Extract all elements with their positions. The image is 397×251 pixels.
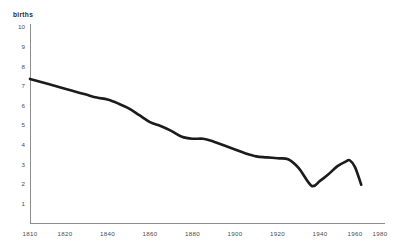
y-tick-label-9: 9 — [22, 43, 26, 50]
x-tick-label-1980: 1980 — [372, 230, 387, 237]
y-tick-label-5: 5 — [22, 121, 26, 128]
births-line-series — [30, 79, 361, 186]
y-axis-tick-labels: 10987654321 — [18, 23, 25, 206]
x-tick-label-1810: 1810 — [22, 230, 37, 237]
x-tick-label-1840: 1840 — [100, 230, 115, 237]
y-tick-label-1: 1 — [22, 200, 26, 207]
x-tick-label-1900: 1900 — [227, 230, 242, 237]
y-axis-title-group: births — [13, 11, 33, 18]
y-tick-label-8: 8 — [22, 63, 26, 70]
y-tick-label-4: 4 — [22, 141, 26, 148]
y-axis-title: births — [13, 11, 33, 18]
chart-canvas: births 10987654321 181018201840186018801… — [0, 0, 397, 251]
x-tick-label-1920: 1920 — [270, 230, 285, 237]
x-tick-label-1940: 1940 — [312, 230, 327, 237]
y-tick-label-6: 6 — [22, 102, 26, 109]
y-tick-label-3: 3 — [22, 161, 26, 168]
birth-rate-chart: births 10987654321 181018201840186018801… — [0, 0, 397, 251]
y-tick-label-2: 2 — [22, 180, 26, 187]
x-axis-tick-labels: 1810182018401860188019001920194019601980 — [22, 230, 387, 237]
x-tick-label-1820: 1820 — [57, 230, 72, 237]
x-tick-label-1880: 1880 — [185, 230, 200, 237]
x-tick-label-1860: 1860 — [142, 230, 157, 237]
x-tick-label-1960: 1960 — [347, 230, 362, 237]
y-tick-label-7: 7 — [22, 82, 26, 89]
y-tick-label-10: 10 — [18, 23, 25, 30]
